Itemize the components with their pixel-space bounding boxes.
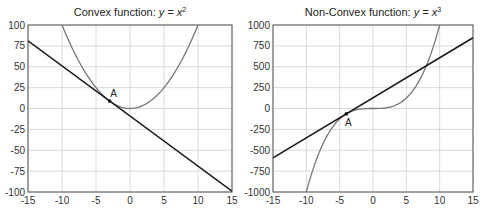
x-tick-label: 5: [161, 195, 167, 206]
y-tick-label: 0: [19, 103, 25, 114]
x-tick-label: 15: [467, 195, 479, 206]
point-a-label: A: [110, 88, 117, 99]
y-tick-label: 500: [253, 61, 270, 72]
x-tick-label: -10: [55, 195, 70, 206]
convex-chart: -15-10-5051015-100-75-50-250255075100Con…: [5, 6, 238, 206]
x-tick-label: -5: [92, 195, 101, 206]
y-tick-label: 25: [14, 82, 26, 93]
charts-canvas: -15-10-5051015-100-75-50-250255075100Con…: [0, 0, 488, 217]
x-tick-label: -10: [299, 195, 314, 206]
y-tick-label: -1000: [244, 187, 270, 198]
y-tick-label: 75: [14, 40, 26, 51]
x-tick-label: 10: [434, 195, 446, 206]
x-tick-label: 0: [370, 195, 376, 206]
y-tick-label: 0: [264, 103, 270, 114]
x-tick-label: 15: [226, 195, 238, 206]
y-tick-label: 250: [253, 82, 270, 93]
chart-title: Convex function: y = x2: [74, 6, 187, 18]
x-tick-label: 10: [192, 195, 204, 206]
point-a-label: A: [345, 117, 352, 128]
point-a-marker: [108, 99, 112, 103]
y-tick-label: -100: [5, 187, 25, 198]
y-tick-label: -500: [250, 145, 270, 156]
y-tick-label: 50: [14, 61, 26, 72]
x-tick-label: -5: [335, 195, 344, 206]
y-tick-label: 1000: [248, 20, 271, 31]
x-tick-label: 5: [404, 195, 410, 206]
x-tick-label: 0: [127, 195, 133, 206]
y-tick-label: -75: [11, 166, 26, 177]
y-tick-label: -50: [11, 145, 26, 156]
y-tick-label: -750: [250, 166, 270, 177]
y-tick-label: -25: [11, 124, 26, 135]
y-tick-label: -250: [250, 124, 270, 135]
y-tick-label: 100: [8, 20, 25, 31]
non-convex-chart: -15-10-5051015-1000-750-500-250025050075…: [244, 6, 479, 206]
point-a-marker: [345, 112, 349, 116]
y-tick-label: 750: [253, 40, 270, 51]
chart-title: Non-Convex function: y = x3: [305, 6, 441, 18]
